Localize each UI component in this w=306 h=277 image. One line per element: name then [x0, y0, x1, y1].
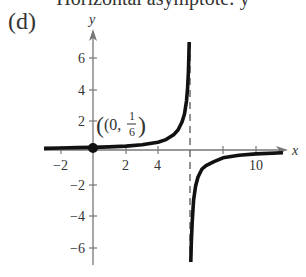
y-intercept-point [88, 143, 98, 153]
y-tick-label: 2 [78, 114, 85, 129]
svg-text:(: ( [96, 112, 104, 138]
chart-plot: −2 2 4 10 6 4 2 −2 −4 −6 y x ( (0, 1 6 ) [0, 0, 306, 277]
y-tick-label: 4 [78, 83, 85, 98]
x-tick-label: 10 [249, 158, 263, 173]
x-tick-label: 4 [154, 158, 161, 173]
x-tick-label: 2 [122, 158, 129, 173]
y-tick-label: 6 [78, 51, 85, 66]
point-label-suffix: ) [138, 112, 146, 138]
fraction-numerator: 1 [129, 109, 135, 123]
fraction-denominator: 6 [129, 125, 135, 139]
x-axis-label: x [291, 143, 299, 158]
y-tick-label: −2 [70, 178, 85, 193]
point-annotation: ( (0, 1 6 ) [96, 109, 146, 139]
curve-right-branch [191, 153, 283, 262]
y-axis-label: y [87, 12, 96, 27]
y-tick-label: −6 [70, 241, 85, 256]
y-tick-label: −4 [70, 209, 85, 224]
x-tick-label: −2 [53, 158, 68, 173]
point-label-prefix: (0, [104, 116, 121, 134]
